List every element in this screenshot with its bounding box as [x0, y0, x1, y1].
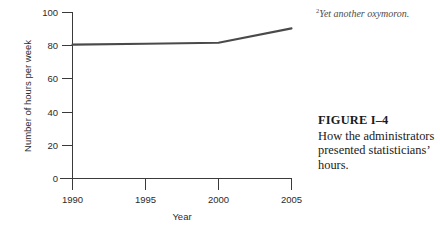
x-tick-label-2000: 2000	[208, 194, 229, 205]
x-tick-label-1995: 1995	[135, 194, 156, 205]
figure-caption-body: How the administrators presented statist…	[318, 129, 440, 173]
line-chart: 100 80 60 40 20 0 1990 1995 2000 2005 Ye…	[0, 0, 310, 227]
chart-figure: 100 80 60 40 20 0 1990 1995 2000 2005 Ye…	[0, 0, 310, 227]
y-tick-label-20: 20	[47, 140, 58, 151]
x-tick-label-1990: 1990	[62, 194, 83, 205]
data-series-hours-per-week	[73, 28, 292, 44]
x-axis-title: Year	[172, 211, 191, 222]
x-tick-label-2005: 2005	[281, 194, 302, 205]
y-axis-title: Number of hours per week	[22, 40, 33, 152]
y-tick-label-80: 80	[47, 40, 58, 51]
figure-caption-heading: FIGURE I–4	[318, 113, 440, 128]
footnote: 2Yet another oxymoron.	[316, 5, 440, 20]
figure-caption: FIGURE I–4 How the administrators presen…	[318, 113, 440, 172]
y-tick-label-60: 60	[47, 73, 58, 84]
y-tick-label-100: 100	[42, 7, 58, 18]
footnote-text: Yet another oxymoron.	[319, 8, 409, 19]
y-tick-label-0: 0	[53, 173, 58, 184]
y-tick-label-40: 40	[47, 107, 58, 118]
